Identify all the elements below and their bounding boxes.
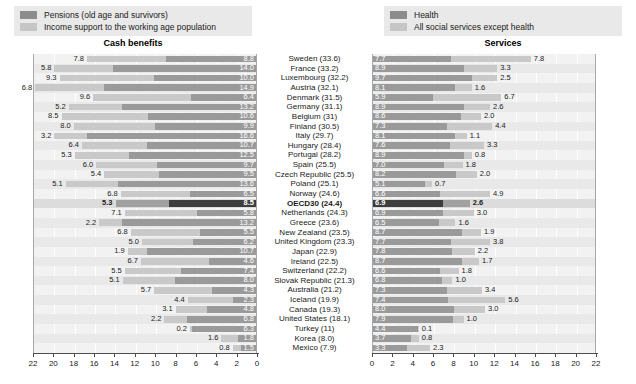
- axis-tick-label-services: 14: [505, 359, 525, 368]
- bar-segment-cash_income_support: [87, 56, 166, 63]
- axis-tick-services: [555, 354, 556, 357]
- bar-segment-cash_income_support: [128, 248, 147, 255]
- value-label-serv_other: 6.7: [504, 92, 514, 103]
- chart-page: Pensions (old age and survivors) Income …: [0, 0, 636, 384]
- bar-segment-cash_income_support: [190, 326, 192, 333]
- bar-segment-serv_health: [373, 229, 462, 236]
- bar-row: 8.87.8: [34, 54, 256, 64]
- bar-segment-cash_pensions: [104, 84, 256, 91]
- bar-segment-cash_pensions: [157, 162, 256, 169]
- bar-row: 8.93.3: [373, 64, 595, 74]
- category-label: Korea (8.0): [258, 334, 371, 344]
- category-label: Czech Republic (25.5): [258, 170, 371, 180]
- bar-row: 8.03.0: [373, 305, 595, 315]
- value-label-serv_other: 2.6: [493, 102, 503, 113]
- bar-segment-serv_other: [451, 239, 490, 246]
- axis-tick-cash-benefits: [74, 354, 75, 357]
- bar-segment-cash_income_support: [62, 113, 149, 120]
- bar-row: 8.55.3: [34, 199, 256, 209]
- bar-row: 12.55.3: [34, 150, 256, 160]
- value-label-cash_income_support: 4.4: [174, 295, 184, 306]
- category-label: Belgium (31): [258, 112, 371, 122]
- category-label: Ireland (22.5): [258, 257, 371, 267]
- axis-tick-services: [453, 354, 454, 357]
- bar-segment-cash_income_support: [221, 335, 237, 342]
- bar-segment-cash_income_support: [164, 316, 186, 323]
- bar-rows: 7.77.88.93.39.72.58.11.65.96.78.92.68.62…: [373, 54, 595, 353]
- bar-row: 8.11.6: [373, 83, 595, 93]
- bar-segment-cash_income_support: [125, 268, 181, 275]
- value-label-serv_other: 1.0: [467, 314, 477, 325]
- axis-tick-cash-benefits: [196, 354, 197, 357]
- legend-services: Health All social services except health: [384, 6, 622, 36]
- legend-item-income-support: Income support to the working age popula…: [20, 21, 246, 32]
- bar-segment-cash_income_support: [142, 239, 193, 246]
- bar-segment-serv_other: [462, 229, 481, 236]
- bar-segment-serv_other: [453, 316, 463, 323]
- bar-segment-cash_income_support: [93, 94, 191, 101]
- value-label-serv_other: 3.8: [493, 237, 503, 248]
- value-label-serv_other: 2.0: [484, 111, 494, 122]
- bar-row: 9.72.5: [373, 73, 595, 83]
- bar-row: 6.64.9: [373, 189, 595, 199]
- bar-segment-cash_income_support: [54, 65, 113, 72]
- bar-segment-cash_income_support: [66, 181, 118, 188]
- bar-segment-serv_other: [407, 345, 430, 352]
- bar-row: 8.62.0: [373, 112, 595, 122]
- bar-row: 8.22.0: [373, 170, 595, 180]
- bar-row: 1.81.6: [34, 334, 256, 344]
- bar-row: 8.05.1: [34, 276, 256, 286]
- bar-row: 4.66.7: [34, 257, 256, 267]
- axis-tick-cash-benefits: [257, 354, 258, 357]
- value-label-serv_other: 1.6: [458, 218, 468, 229]
- bar-row: 5.96.7: [373, 93, 595, 103]
- axis-tick-label-cash-benefits: 8: [166, 359, 186, 368]
- value-label-cash_income_support: 8.5: [48, 111, 58, 122]
- axis-tick-services: [576, 354, 577, 357]
- bar-row: 6.49.6: [34, 93, 256, 103]
- bar-segment-serv_other: [464, 104, 490, 111]
- bar-segment-cash_income_support: [188, 297, 233, 304]
- bar-row: 8.90.8: [373, 150, 595, 160]
- legend-swatch-health: [390, 11, 407, 19]
- bar-segment-serv_health: [373, 171, 456, 178]
- value-label-serv_other: 4.9: [493, 189, 503, 200]
- bar-segment-cash_income_support: [176, 306, 208, 313]
- axis-tick-services: [474, 354, 475, 357]
- category-label: OECD30 (24.4): [258, 199, 371, 209]
- value-label-cash_income_support: 1.9: [114, 246, 124, 257]
- bar-row: 6.25.0: [34, 237, 256, 247]
- bar-row: 9.98.0: [34, 122, 256, 132]
- category-label: Portugal (28.2): [258, 150, 371, 160]
- axis-tick-label-services: 20: [566, 359, 586, 368]
- legend-swatch-pensions: [20, 11, 37, 19]
- bar-row: 7.45.6: [373, 295, 595, 305]
- category-label: Poland (25.1): [258, 179, 371, 189]
- value-label-serv_other: 3.4: [485, 285, 495, 296]
- axis-tick-services: [433, 354, 434, 357]
- bar-row: 7.91.0: [373, 314, 595, 324]
- bar-rows: 8.87.814.05.810.09.314.96.86.49.613.25.2…: [34, 54, 256, 353]
- bar-segment-cash_income_support: [154, 287, 212, 294]
- axis-tick-services: [494, 354, 495, 357]
- axis-tick-label-services: 22: [586, 359, 606, 368]
- axis-line-cash-benefits: [33, 353, 259, 354]
- bar-row: 10.09.3: [34, 73, 256, 83]
- category-label: Switzerland (22.2): [258, 266, 371, 276]
- bar-segment-serv_other: [450, 142, 484, 149]
- bar-row: 5.56.8: [34, 228, 256, 238]
- category-axis-labels: Sweden (33.6)France (33.2)Luxembourg (32…: [258, 54, 371, 353]
- bar-row: 7.77.8: [373, 54, 595, 64]
- bar-segment-serv_health: [373, 113, 461, 120]
- axis-line-services: [372, 353, 598, 354]
- bar-segment-cash_pensions: [118, 181, 256, 188]
- axis-tick-services: [535, 354, 536, 357]
- bar-segment-serv_health: [373, 65, 464, 72]
- bar-segment-cash_pensions: [113, 65, 256, 72]
- bar-row: 6.51.6: [373, 218, 595, 228]
- bar-row: 9.76.0: [34, 160, 256, 170]
- bar-segment-serv_health: [373, 152, 464, 159]
- axis-tick-label-services: 6: [423, 359, 443, 368]
- category-label: Norway (24.6): [258, 189, 371, 199]
- axis-tick-services: [515, 354, 516, 357]
